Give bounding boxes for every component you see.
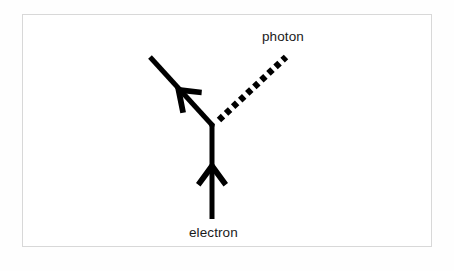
figure-root: photon electron [0,0,454,271]
photon-label: photon [262,30,304,44]
outgoing-electron-line [150,57,213,126]
interaction-vertex [209,122,214,127]
photon-dotted-stroke [219,57,286,120]
electron-label: electron [189,226,238,240]
photon-line [219,57,286,120]
incoming-electron-line [196,124,228,219]
